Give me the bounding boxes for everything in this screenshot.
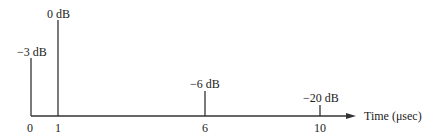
impulse-level-label: −3 dB (17, 46, 47, 58)
time-tick-label: 1 (55, 122, 61, 134)
axis-label: Time (μsec) (364, 110, 422, 122)
time-tick-label: 6 (202, 122, 208, 134)
time-tick-label: 10 (314, 122, 326, 134)
impulse-level-label: −20 dB (303, 92, 339, 104)
impulse-level-label: 0 dB (47, 8, 70, 20)
axis-arrowhead (346, 113, 356, 119)
impulse-level-label: −6 dB (190, 78, 220, 90)
time-tick-label: 0 (27, 122, 33, 134)
